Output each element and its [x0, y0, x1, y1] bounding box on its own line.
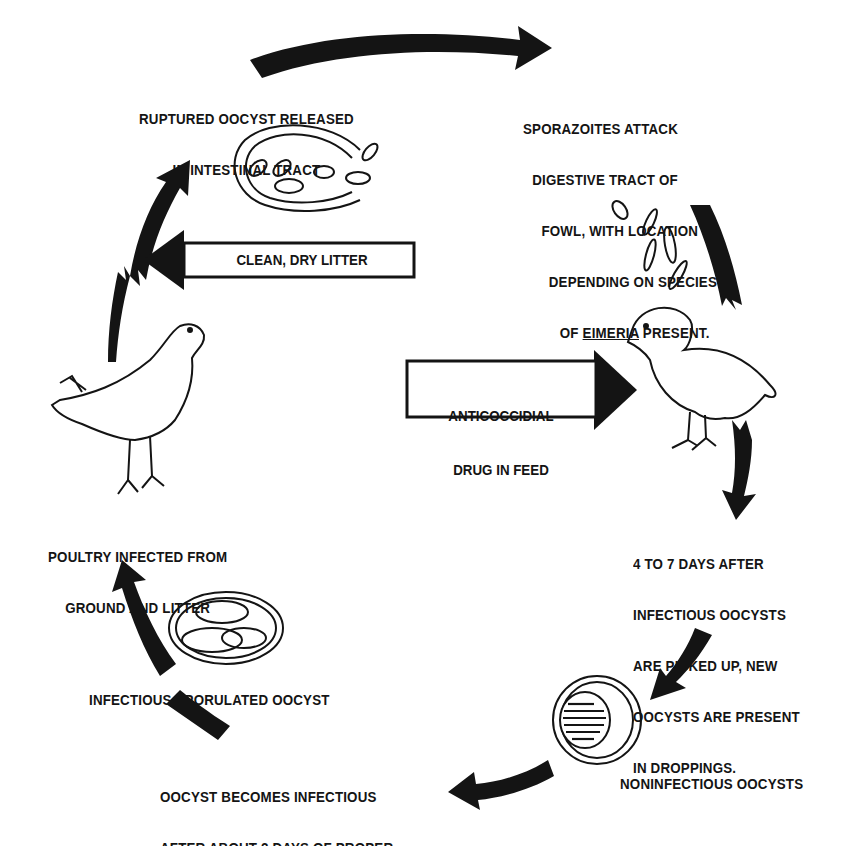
intervention-drug-label: ANTICOCCIDIAL DRUG IN FEED — [419, 371, 583, 497]
cycle-arrow-top — [250, 26, 552, 78]
hen-illustration — [52, 324, 204, 494]
intervention-litter-label: CLEAN, DRY LITTER — [219, 251, 385, 269]
cycle-arrow-bottom — [448, 760, 554, 810]
drug-arrow-head — [594, 350, 637, 430]
stage-sporulated-label: INFECTIOUS SPORULATED OOCYST — [89, 692, 330, 709]
stage-becomes-label: OOCYST BECOMES INFECTIOUS AFTER ABOUT 2 … — [160, 755, 393, 846]
stage-poultry-label: POULTRY INFECTED FROM GROUND AND LITTER — [48, 515, 227, 634]
eimeria-genus: EIMERIA — [583, 325, 639, 341]
stage-noninfectious-label: NONINFECTIOUS OOCYSTS — [620, 776, 803, 793]
noninfectious-oocyst-illustration — [553, 676, 641, 764]
stage-days-label: 4 TO 7 DAYS AFTER INFECTIOUS OOCYSTS ARE… — [633, 522, 800, 794]
stage-ruptured-label: RUPTURED OOCYST RELEASED IN INTESTINAL T… — [139, 77, 354, 196]
stage-sporozoites-label: SPORAZOITES ATTACK DIGESTIVE TRACT OF FO… — [523, 87, 717, 359]
cycle-arrow-right-lower — [722, 420, 756, 520]
